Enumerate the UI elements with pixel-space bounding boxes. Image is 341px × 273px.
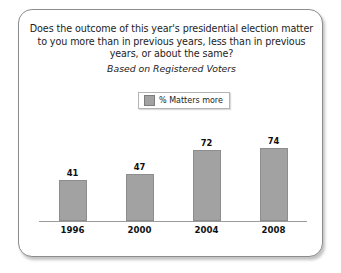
chart-title-line-3: years, or about the same?: [29, 48, 314, 61]
bar-slot-2004: 72: [173, 111, 240, 221]
x-axis-line: [39, 221, 307, 223]
chart-title-line-2: to you more than in previous years, less…: [29, 36, 314, 49]
x-label-2000: 2000: [106, 225, 173, 235]
bar-2004[interactable]: [193, 150, 221, 221]
chart-subtitle: Based on Registered Voters: [29, 62, 314, 75]
chart-legend[interactable]: % Matters more: [138, 92, 230, 109]
legend-swatch-icon: [144, 95, 155, 106]
chart-title-block: Does the outcome of this year's presiden…: [29, 23, 314, 75]
bar-value-2004: 72: [201, 139, 213, 148]
bar-value-1996: 41: [67, 169, 79, 178]
x-label-2004: 2004: [173, 225, 240, 235]
bar-1996[interactable]: [59, 180, 87, 221]
x-label-1996: 1996: [39, 225, 106, 235]
legend-label-matters-more: % Matters more: [159, 96, 223, 105]
bar-slot-2008: 74: [240, 111, 307, 221]
x-axis-category-labels: 1996 2000 2004 2008: [39, 225, 307, 235]
chart-panel: Does the outcome of this year's presiden…: [18, 9, 323, 257]
bar-slot-2000: 47: [106, 111, 173, 221]
bar-2008[interactable]: [260, 148, 288, 221]
bar-slot-1996: 41: [39, 111, 106, 221]
plot-area: 41 47 72 74: [39, 110, 307, 222]
bar-2000[interactable]: [126, 174, 154, 221]
chart-screenshot: Does the outcome of this year's presiden…: [0, 0, 341, 273]
chart-title-line-1: Does the outcome of this year's presiden…: [29, 23, 314, 36]
bar-value-2008: 74: [268, 137, 280, 146]
bar-series: 41 47 72 74: [39, 111, 307, 221]
x-label-2008: 2008: [240, 225, 307, 235]
bar-value-2000: 47: [134, 163, 146, 172]
